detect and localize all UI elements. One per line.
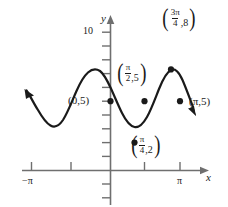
point-label-min: ( π 4 ,2 ) <box>130 135 161 156</box>
close-paren-min: ) <box>154 135 160 156</box>
open-paren-max: ( <box>162 8 168 29</box>
open-paren-min: ( <box>131 135 137 156</box>
x-tick-label-neg-pi: −π <box>22 175 33 186</box>
close-paren-max: ) <box>189 8 195 29</box>
point-label-origin: (0,5) <box>68 94 89 106</box>
y-axis-ticks <box>102 32 111 198</box>
y-tick-label-10: 10 <box>83 25 93 36</box>
fraction-denominator-mid: 2 <box>125 73 132 83</box>
point-marker-right <box>177 98 183 104</box>
fraction-denominator-min: 4 <box>139 145 146 155</box>
point-label-max: ( 3π 4 ,8 ) <box>161 8 197 29</box>
point-label-max-yvalue: ,8 <box>181 18 189 29</box>
y-axis-arrow-icon <box>107 15 115 24</box>
point-marker-max <box>168 66 174 72</box>
fraction-denominator-max: 4 <box>172 18 179 28</box>
fraction-max: 3π 4 <box>170 8 181 28</box>
point-label-min-yvalue: ,2 <box>145 145 153 156</box>
point-label-mid: ( π 2 ,5 ) <box>116 63 147 84</box>
x-axis-ticks <box>32 162 181 171</box>
fraction-numerator-max: 3π <box>170 8 181 17</box>
figure-container: y x 10 −π π (0,5) (π,5) ( 3π 4 ,8 ) ( π … <box>0 0 228 207</box>
point-marker-origin <box>107 98 113 104</box>
point-marker-mid <box>141 98 147 104</box>
x-axis-label: x <box>206 171 211 183</box>
x-tick-label-pi: π <box>177 175 182 186</box>
y-axis-label: y <box>101 12 106 24</box>
open-paren-mid: ( <box>117 63 123 84</box>
point-label-mid-yvalue: ,5 <box>131 73 139 84</box>
point-label-right: (π,5) <box>189 95 210 107</box>
close-paren-mid: ) <box>140 63 146 84</box>
